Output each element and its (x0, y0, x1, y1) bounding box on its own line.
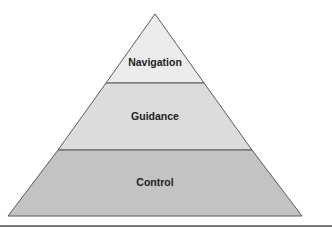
tier-label-navigation: Navigation (128, 56, 182, 68)
tier-label-control: Control (136, 176, 173, 188)
pyramid-diagram: Navigation Guidance Control (0, 0, 332, 228)
tier-label-guidance: Guidance (131, 110, 179, 122)
tier-navigation (106, 14, 204, 83)
